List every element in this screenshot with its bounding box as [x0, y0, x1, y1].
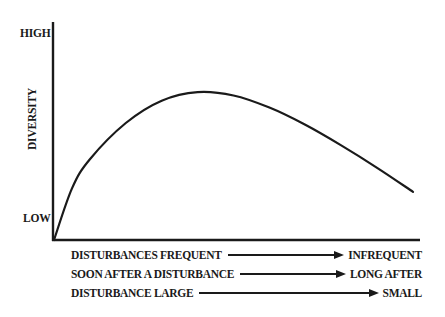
- annotation-row-time: SOON AFTER A DISTURBANCE LONG AFTER: [71, 267, 422, 281]
- diversity-curve: [54, 92, 413, 240]
- annotation-left-label: DISTURBANCE LARGE: [71, 287, 193, 299]
- y-axis-high-label: HIGH: [20, 28, 51, 40]
- y-axis-low-label: LOW: [23, 213, 51, 225]
- y-axis-title: DIVERSITY: [27, 88, 39, 150]
- annotation-right-label: INFREQUENT: [348, 249, 422, 261]
- annotation-left-label: SOON AFTER A DISTURBANCE: [71, 268, 234, 280]
- annotation-left-label: DISTURBANCES FREQUENT: [71, 249, 222, 261]
- right-arrow-icon: [240, 267, 346, 281]
- right-arrow-icon: [228, 248, 345, 262]
- annotation-row-size: DISTURBANCE LARGE SMALL: [71, 286, 422, 300]
- annotation-right-label: SMALL: [383, 287, 422, 299]
- right-arrow-icon: [199, 286, 378, 300]
- annotation-right-label: LONG AFTER: [350, 268, 422, 280]
- annotation-row-frequency: DISTURBANCES FREQUENT INFREQUENT: [71, 248, 422, 262]
